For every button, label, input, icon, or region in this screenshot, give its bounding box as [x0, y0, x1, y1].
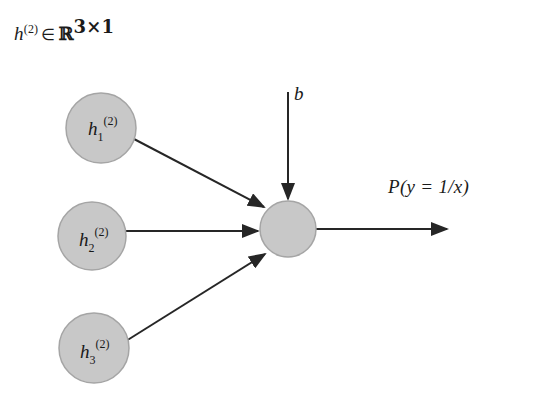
bias-label: b	[294, 83, 304, 105]
node-h3-circle[interactable]	[59, 313, 129, 383]
node-h1[interactable]: h1(2)	[66, 93, 136, 163]
edge-h3-to-output	[126, 254, 265, 341]
neural-network-diagram: h(2)∈ℝ3×1 h1(2) h2(2)	[0, 0, 548, 408]
node-h1-base: h	[88, 118, 98, 139]
output-probability-label: P(y = 1/x)	[388, 176, 469, 198]
output-node-circle[interactable]	[260, 201, 316, 257]
node-output[interactable]	[260, 201, 316, 257]
node-h3[interactable]: h3(2)	[59, 313, 129, 383]
node-h1-superscript: (2)	[104, 114, 118, 128]
node-h2-subscript: 2	[89, 241, 95, 255]
node-h1-subscript: 1	[98, 130, 104, 144]
node-h3-subscript: 3	[90, 353, 96, 367]
node-h3-superscript: (2)	[96, 337, 110, 351]
edge-h1-to-output	[134, 139, 264, 207]
node-h2-base: h	[79, 229, 89, 250]
node-h2-superscript: (2)	[95, 225, 109, 239]
node-h2-circle[interactable]	[58, 202, 126, 270]
node-h1-circle[interactable]	[66, 93, 136, 163]
node-h2[interactable]: h2(2)	[58, 202, 126, 270]
diagram-canvas: h1(2) h2(2) h3(2)	[0, 0, 548, 408]
edge-group	[126, 139, 265, 341]
node-h3-base: h	[80, 341, 90, 362]
